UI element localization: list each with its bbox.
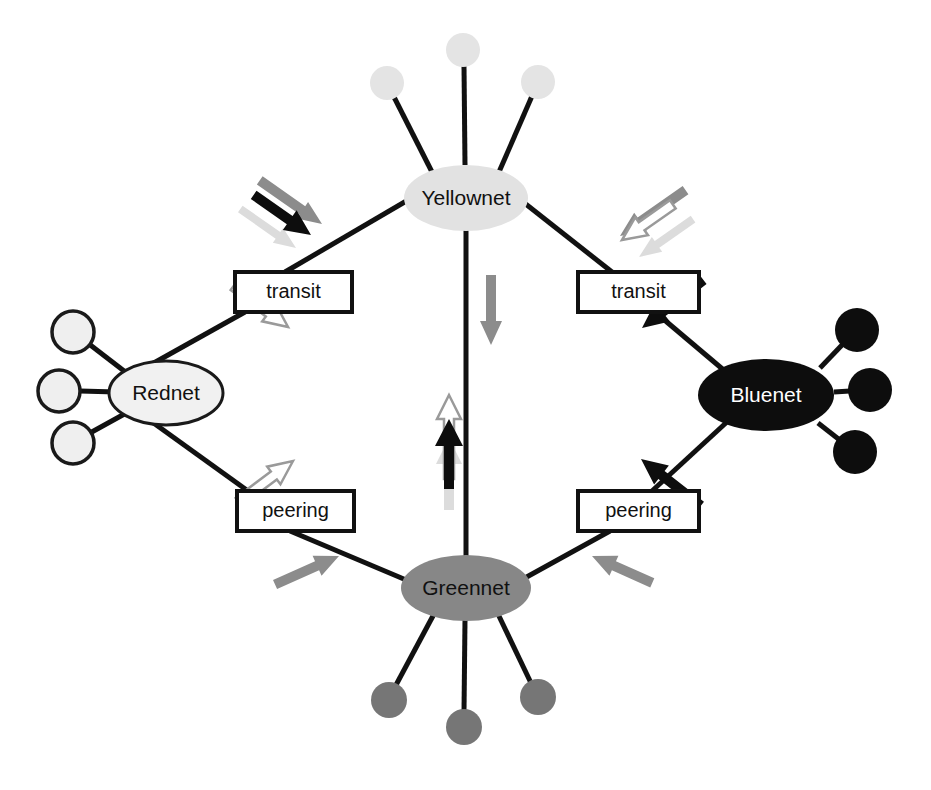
customer-node-yellownet-3 [521,65,555,99]
arrow-shape [435,419,463,489]
customer-node-rednet-2 [38,370,80,412]
customer-node-yellownet-2 [446,33,480,67]
arrow-shape [271,546,344,595]
rednet-label: Rednet [132,381,200,404]
network-node-yellownet[interactable]: Yellownet [404,165,528,231]
link-greennet-customer-1 [396,614,434,685]
network-node-greennet[interactable]: Greennet [401,555,531,621]
link-greennet-customer-3 [498,614,531,683]
flow-yellow-right-white [616,195,679,249]
peering-left-label: peering [262,499,329,521]
customer-node-bluenet-1 [835,308,879,352]
link-rednet-customer-1 [89,344,128,374]
network-node-bluenet[interactable]: Bluenet [698,359,834,431]
relationship-box-peering-right[interactable]: peering [578,491,699,531]
customer-node-rednet-3 [52,422,94,464]
link-bluenet-customer-3 [818,423,841,441]
relationship-box-peering-left[interactable]: peering [237,491,354,531]
greennet-label: Greennet [422,576,510,599]
arrow-shape [616,195,679,249]
network-diagram: Yellownet Rednet Bluenet Greennet transi… [0,0,931,790]
customer-node-bluenet-3 [833,430,877,474]
link-bluenet-customer-1 [820,345,842,368]
flow-center-up-gray [480,275,502,345]
link-bluenet-customer-2 [834,391,850,392]
flow-green-left [271,546,344,595]
customer-node-yellownet-1 [370,66,404,100]
flow-center-black [435,419,463,489]
customer-node-rednet-1 [52,311,94,353]
customer-node-bluenet-2 [848,368,892,412]
link-greennet-customer-2 [464,620,465,711]
network-diagram-canvas: Yellownet Rednet Bluenet Greennet transi… [0,0,931,790]
transit-right-label: transit [611,280,666,302]
bluenet-label: Bluenet [730,383,801,406]
customer-node-greennet-3 [520,679,556,715]
customer-node-greennet-2 [446,709,482,745]
link-transit-yellownet-right [513,194,612,272]
peering-right-label: peering [605,499,672,521]
link-yellownet-customer-2 [464,66,465,165]
network-node-rednet[interactable]: Rednet [109,361,223,425]
arrow-shape [588,546,657,593]
transit-left-label: transit [266,280,321,302]
yellownet-label: Yellownet [421,186,510,209]
link-yellownet-customer-1 [394,97,432,172]
flow-green-right [588,546,657,593]
link-peering-greennet-left [290,531,418,585]
relationship-box-transit-left[interactable]: transit [235,272,352,312]
link-yellownet-customer-3 [499,96,532,172]
relationship-box-transit-right[interactable]: transit [578,272,699,312]
arrow-shape [480,275,502,345]
customer-node-greennet-1 [371,682,407,718]
link-rednet-peering [148,419,248,491]
